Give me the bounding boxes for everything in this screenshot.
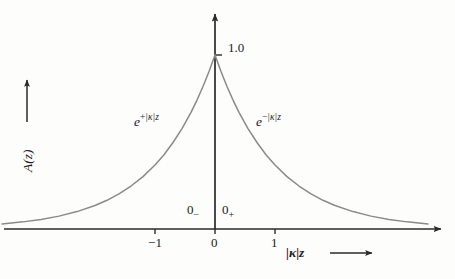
evanescent-amplitude-figure: 1.0 e+|κ|z e−|κ|z 0− 0+ −1 0 1 |κ|z A(z)	[0, 0, 455, 279]
x-tick-label-zero: 0	[211, 236, 218, 249]
x-tick-label-one: 1	[271, 236, 278, 249]
peak-value-label: 1.0	[228, 41, 244, 54]
left-branch-exponent: +|κ|z	[140, 112, 159, 122]
y-axis-title: A(z)	[21, 150, 35, 173]
zero-plus-label: 0+	[222, 203, 234, 220]
curve-right-branch	[215, 55, 428, 224]
right-branch-label: e−|κ|z	[256, 113, 281, 128]
zero-minus-label: 0−	[187, 203, 199, 220]
curve-left-branch	[2, 55, 215, 224]
x-tick-label-minus-one: −1	[148, 236, 162, 249]
left-branch-label: e+|κ|z	[134, 113, 159, 128]
right-branch-exponent: −|κ|z	[262, 112, 281, 122]
x-axis-title: |κ|z	[286, 246, 304, 260]
